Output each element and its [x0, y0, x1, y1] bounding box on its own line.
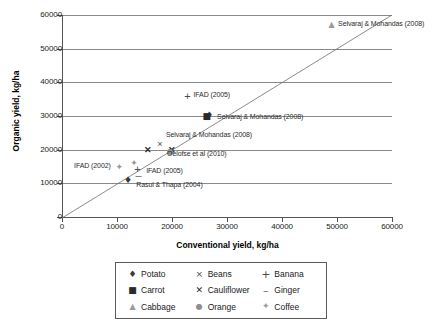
circle-marker: ●	[193, 303, 206, 311]
data-point-carrot-1: ■	[202, 112, 211, 121]
annotation-6: IFAD (2002)	[74, 162, 111, 170]
gridline-y-50000	[62, 49, 392, 50]
x-bold-marker: ✕	[193, 286, 206, 295]
gridline-y-10000	[62, 183, 392, 184]
legend-label-cabbage: Cabbage	[139, 302, 176, 312]
x-tick-label-60000: 60000	[362, 223, 422, 231]
data-point-potato-1: ♦	[124, 175, 132, 184]
chart-legend: ♦Potato×Beans+Banana■Carrot✕Cauliflower–…	[115, 262, 327, 319]
y-axis-title: Organic yield, kg/ha	[11, 41, 21, 181]
triangle-marker: ▲	[126, 303, 139, 311]
legend-item-ginger[interactable]: –Ginger	[259, 285, 326, 296]
legend-item-cauliflower[interactable]: ✕Cauliflower	[193, 285, 260, 295]
y-tick-label-0: 0	[2, 213, 62, 221]
legend-label-banana: Banana	[272, 269, 303, 279]
data-point-ginger-1: –	[135, 169, 141, 180]
data-point-cauliflower-1: ✕	[144, 145, 152, 154]
dash-marker: –	[259, 285, 272, 296]
x-tick-label-40000: 40000	[252, 223, 312, 231]
plus-marker: +	[259, 269, 272, 280]
annotation-1: Selvaraj & Mohandas (2008)	[338, 20, 424, 28]
legend-label-ginger: Ginger	[272, 285, 300, 295]
x-tick-label-20000: 20000	[142, 223, 202, 231]
data-point-cabbage-1: ▲	[328, 21, 334, 29]
annotation-4: Selvaraj & Mohandas (2008)	[166, 131, 252, 139]
x-tick-label-50000: 50000	[307, 223, 367, 231]
data-point-coffee-1: ✦	[115, 162, 123, 171]
legend-label-carrot: Carrot	[139, 285, 165, 295]
legend-label-cauliflower: Cauliflower	[206, 285, 250, 295]
legend-item-carrot[interactable]: ■Carrot	[126, 285, 193, 295]
annotation-2: IFAD (2005)	[193, 91, 230, 99]
data-point-beans-1: ×	[157, 139, 162, 148]
annotation-3: Selvaraj & Mohandas (2008)	[217, 113, 303, 121]
legend-item-beans[interactable]: ×Beans	[193, 269, 260, 279]
legend-label-coffee: Coffee	[272, 302, 299, 312]
annotation-8: Rasul & Thapa (2004)	[136, 181, 202, 189]
x-tick-label-10000: 10000	[87, 223, 147, 231]
y-axis-line	[62, 15, 63, 218]
x-tick-label-30000: 30000	[197, 223, 257, 231]
data-point-coffee-2: ✦	[130, 158, 138, 167]
gridline-y-60000	[62, 15, 392, 16]
x-marker: ×	[193, 270, 206, 279]
scatter-plot-figure: 0100002000030000400005000060000 01000020…	[0, 0, 441, 334]
legend-item-potato[interactable]: ♦Potato	[126, 269, 193, 279]
annotation-7: IFAD (2005)	[146, 167, 183, 175]
legend-label-orange: Orange	[206, 302, 236, 312]
legend-item-cabbage[interactable]: ▲Cabbage	[126, 302, 193, 312]
legend-label-potato: Potato	[139, 269, 166, 279]
square-marker: ■	[126, 286, 139, 295]
gridline-y-40000	[62, 82, 392, 83]
y-tick-label-60000: 60000	[2, 11, 62, 19]
gridline-y-20000	[62, 150, 392, 151]
legend-item-coffee[interactable]: ✦Coffee	[259, 302, 326, 312]
x-axis-title: Conventional yield, kg/ha	[62, 240, 393, 250]
legend-item-banana[interactable]: +Banana	[259, 269, 326, 280]
diamond-marker: ♦	[126, 270, 139, 279]
legend-label-beans: Beans	[206, 269, 232, 279]
annotation-5: Oelofse et al (2010)	[167, 150, 226, 158]
coffee-marker: ✦	[259, 302, 272, 311]
legend-item-orange[interactable]: ●Orange	[193, 302, 260, 312]
x-tick-label-0: 0	[32, 223, 92, 231]
data-point-banana-2: +	[184, 90, 190, 101]
